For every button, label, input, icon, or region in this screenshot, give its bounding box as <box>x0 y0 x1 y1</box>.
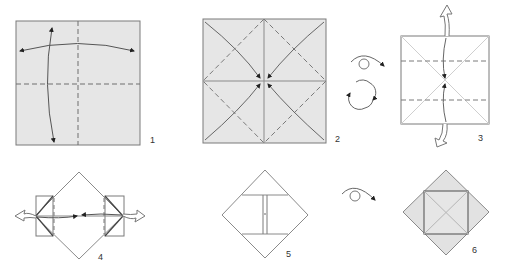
step-3-diagram <box>401 5 489 147</box>
pull-arrow-right <box>123 210 145 222</box>
pull-arrow-up <box>440 5 452 36</box>
pull-arrow-left <box>15 210 36 221</box>
turn-over-icon <box>351 56 384 69</box>
step-4-diagram <box>15 172 145 259</box>
rotate-icon <box>349 80 376 109</box>
pull-arrow-down <box>435 124 447 147</box>
step-number-5: 5 <box>286 249 291 259</box>
step-number-4: 4 <box>98 252 103 262</box>
step-6-diagram <box>403 170 489 255</box>
step-number-6: 6 <box>472 245 477 255</box>
step-1-diagram <box>16 21 140 145</box>
step-number-3: 3 <box>478 133 483 143</box>
step-number-1: 1 <box>150 135 155 145</box>
turn-over-icon <box>342 188 375 201</box>
step-number-2: 2 <box>335 134 340 144</box>
origami-diagram <box>0 0 515 269</box>
step-5-diagram <box>222 170 308 258</box>
step-2-diagram <box>203 19 326 143</box>
